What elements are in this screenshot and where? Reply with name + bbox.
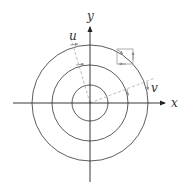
u-tick-middle <box>76 64 84 65</box>
u-axis-label: u <box>69 29 77 43</box>
u-tick-outer <box>70 44 78 45</box>
diagram-canvas: x y u v <box>0 0 188 193</box>
y-axis-label: y <box>86 9 94 23</box>
v-tick-outer <box>147 82 148 90</box>
v-axis-label: v <box>151 81 158 95</box>
x-axis-label: x <box>171 96 178 110</box>
coordinate-diagram: x y u v <box>0 0 188 193</box>
v-axis-dashed <box>90 78 155 103</box>
